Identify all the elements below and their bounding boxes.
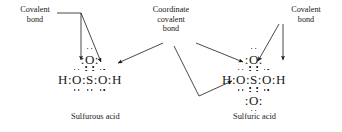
bond-pair-right <box>92 66 94 71</box>
atom-sulfur: S <box>86 73 93 86</box>
atom-oxygen: O <box>249 94 258 107</box>
structure-sulfuric-acid: : O : H : O : S : O : <box>222 52 285 107</box>
lone-pair-bottom <box>264 89 269 91</box>
lone-pair-right: : <box>94 53 99 66</box>
lone-pair-bottom <box>74 89 79 91</box>
atom-oxygen-right: O <box>262 73 271 86</box>
atom-sulfur: S <box>250 73 257 86</box>
atom-oxygen-left: O <box>72 73 81 86</box>
callout-mid-line1: Coordinate <box>140 5 202 15</box>
structure-sulfurous-acid: : O : H : O : S : O <box>58 52 121 87</box>
callout-left-line2: bond <box>4 15 66 25</box>
chemistry-diagram: Covalent bond Coordinate covalent bond C… <box>0 0 342 132</box>
bond-pair-right <box>256 66 258 71</box>
callout-right-covalent-bond: Covalent bond <box>277 5 335 24</box>
lone-pair-top <box>74 69 79 71</box>
lone-pair-top <box>100 69 105 71</box>
lone-pair-top <box>251 48 256 50</box>
sulfuric-chain: H : O : S : O : H <box>222 72 285 87</box>
lone-pair-bottom <box>87 89 92 91</box>
bond-pair-left <box>85 66 87 71</box>
lone-pair-right: : <box>258 94 263 107</box>
callout-right-line2: bond <box>277 15 335 25</box>
lone-pair-top <box>264 69 269 71</box>
atom-oxygen: O <box>85 53 94 66</box>
atom-oxygen: O <box>249 53 258 66</box>
lone-pair-bottom <box>251 110 256 112</box>
atom-hydrogen-left: H <box>58 73 67 86</box>
callout-mid-line2: covalent <box>140 15 202 25</box>
lone-pair-bottom <box>100 89 105 91</box>
sulfurous-chain: H : O : S : O : H <box>58 72 121 87</box>
callout-coordinate-covalent-bond: Coordinate covalent bond <box>140 5 202 34</box>
sulfuric-bottom-oxygen: : O : <box>244 93 263 107</box>
atom-hydrogen-left: H <box>222 73 231 86</box>
callout-left-covalent-bond: Covalent bond <box>4 5 66 24</box>
callout-left-line1: Covalent <box>4 5 66 15</box>
leader-coordinate-left <box>118 43 163 63</box>
sulfuric-top-oxygen: : O : <box>244 52 263 66</box>
lone-pair-top <box>87 48 92 50</box>
sulfurous-top-oxygen: : O : <box>80 52 99 66</box>
callout-mid-line3: bond <box>140 24 202 34</box>
callout-right-line1: Covalent <box>277 5 335 15</box>
caption-sulfurous-acid: Sulfurous acid <box>71 112 120 121</box>
lone-pair-right: : <box>258 53 263 66</box>
atom-hydrogen-right: H <box>276 73 285 86</box>
atom-oxygen-left: O <box>236 73 245 86</box>
atom-hydrogen-right: H <box>112 73 121 86</box>
caption-sulfuric-acid: Sulfuric acid <box>233 112 276 121</box>
lone-pair-top <box>238 69 243 71</box>
lone-pair-bottom <box>238 89 243 91</box>
bond-pair-left <box>249 66 251 71</box>
atom-oxygen-right: O <box>98 73 107 86</box>
